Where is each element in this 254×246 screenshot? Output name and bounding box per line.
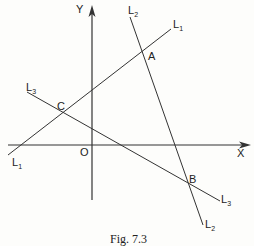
figure-7-3: Y X O A C B L1 L1 L2 L2 L3 L3 Fig. 7.3 bbox=[0, 0, 254, 246]
figure-caption: Fig. 7.3 bbox=[110, 232, 147, 246]
l1-label-bottom: L1 bbox=[12, 156, 22, 170]
y-axis-label: Y bbox=[76, 3, 84, 15]
l3-label-left: L3 bbox=[26, 81, 36, 95]
diagram-canvas: Y X O A C B L1 L1 L2 L2 L3 L3 Fig. 7.3 bbox=[0, 0, 254, 246]
l2-label-top: L2 bbox=[128, 4, 138, 18]
point-c-label: C bbox=[57, 100, 65, 112]
point-a-label: A bbox=[148, 50, 156, 62]
l3-label-right: L3 bbox=[221, 193, 231, 207]
origin-label: O bbox=[80, 146, 89, 158]
line-l2 bbox=[130, 17, 203, 225]
l1-label-top: L1 bbox=[173, 18, 183, 32]
l2-label-bottom: L2 bbox=[205, 218, 215, 232]
point-b-label: B bbox=[189, 173, 196, 185]
x-axis-label: X bbox=[237, 147, 245, 159]
